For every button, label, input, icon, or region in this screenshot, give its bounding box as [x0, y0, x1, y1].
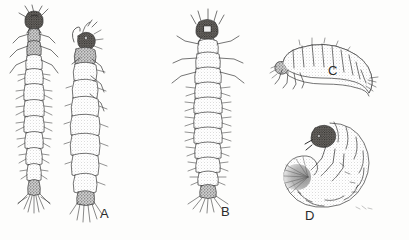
figure-label-c: C: [328, 64, 338, 77]
figure-b-dorsal: [172, 9, 244, 213]
figure-a-lateral: [64, 20, 108, 222]
figure-c-lateral: [270, 38, 378, 96]
plate-artwork: [0, 0, 409, 240]
figure-a-dorsal: [10, 5, 58, 213]
figure-label-d: D: [305, 209, 315, 222]
figure-label-a: A: [100, 207, 109, 220]
illustration-plate: A B C D: [0, 0, 409, 240]
figure-label-b: B: [221, 205, 230, 218]
figure-d-grub: [283, 122, 372, 209]
